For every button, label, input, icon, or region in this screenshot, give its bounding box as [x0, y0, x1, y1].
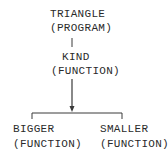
- middle-node-kind: (FUNCTION): [51, 65, 120, 77]
- child-right-name: SMALLER: [100, 123, 148, 135]
- child-left-name: BIGGER: [13, 123, 54, 135]
- middle-node-name: KIND: [62, 51, 90, 63]
- root-node-kind: (PROGRAM): [50, 22, 112, 34]
- arrowhead-icon: [70, 106, 75, 112]
- child-left-kind: (FUNCTION): [13, 138, 82, 150]
- child-right-kind: (FUNCTION): [100, 138, 168, 150]
- root-node-name: TRIANGLE: [50, 8, 105, 20]
